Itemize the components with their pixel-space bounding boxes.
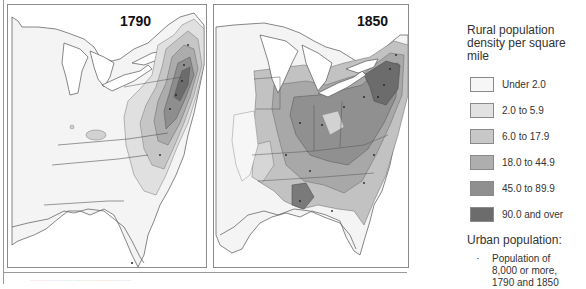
legend-swatch [470, 155, 494, 170]
legend-item: 6.0 to 17.9 [464, 123, 586, 149]
legend-title: Rural population density per square mile [467, 24, 586, 63]
legend-swatch [470, 103, 494, 118]
legend-label: 18.0 to 44.9 [502, 157, 555, 168]
map-panel-1850: 1850 [213, 4, 409, 268]
map-1790 [8, 5, 206, 267]
legend: Rural population density per square mile… [464, 24, 586, 289]
legend-label: 6.0 to 17.9 [502, 131, 549, 142]
map-1850 [214, 5, 408, 267]
urban-legend-item: · Population of 8,000 or more, 1790 and … [470, 253, 586, 289]
faint-caption: ........................................… [30, 275, 131, 282]
legend-item: 18.0 to 44.9 [464, 149, 586, 175]
legend-label: Under 2.0 [502, 79, 546, 90]
legend-label: 2.0 to 5.9 [502, 105, 544, 116]
legend-swatch [470, 207, 494, 222]
city-dot-icon: · [470, 253, 486, 289]
legend-item: Under 2.0 [464, 71, 586, 97]
urban-legend-label: Population of 8,000 or more, 1790 and 18… [492, 253, 578, 289]
legend-item: 2.0 to 5.9 [464, 97, 586, 123]
frame-bottom-edge [3, 272, 407, 273]
legend-swatch [470, 181, 494, 196]
legend-swatch [470, 77, 494, 92]
frame-left-edge [3, 0, 4, 284]
map-panel-1790: 1790 [7, 4, 207, 268]
urban-population-title: Urban population: [467, 233, 586, 247]
legend-item: 45.0 to 89.9 [464, 175, 586, 201]
legend-label: 90.0 and over [502, 209, 563, 220]
legend-item: 90.0 and over [464, 201, 586, 227]
legend-label: 45.0 to 89.9 [502, 183, 555, 194]
legend-swatch [470, 129, 494, 144]
